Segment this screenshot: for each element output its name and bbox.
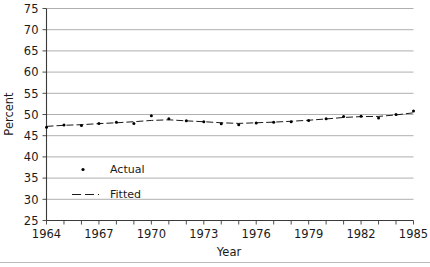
y-tick-labels-group: 2530354045505560657075 [24, 2, 39, 228]
data-point [150, 114, 153, 117]
data-point [377, 116, 380, 119]
x-tick-label: 1973 [189, 227, 218, 241]
y-tick-label: 65 [24, 44, 39, 58]
y-tick-label: 55 [24, 87, 39, 101]
x-tick-label: 1970 [137, 227, 166, 241]
data-point [237, 123, 240, 126]
chart-figure: 2530354045505560657075 19641967197019731… [0, 0, 430, 267]
data-point [307, 119, 310, 122]
x-tick-label: 1985 [399, 227, 428, 241]
y-tick-marks-group [43, 9, 47, 221]
data-point [360, 115, 363, 118]
y-tick-label: 45 [24, 129, 39, 143]
data-point [97, 122, 100, 125]
figure-bottom-rule [0, 262, 430, 263]
data-point [272, 121, 275, 124]
data-point [412, 110, 415, 113]
data-point [132, 122, 135, 125]
data-point [45, 126, 48, 129]
legend-label-actual: Actual [110, 163, 144, 176]
legend-marker-actual [81, 168, 84, 171]
y-axis-title: Percent [2, 92, 16, 136]
data-point [80, 124, 83, 127]
y-tick-label: 40 [24, 150, 39, 164]
data-point [185, 119, 188, 122]
x-axis-title: Year [216, 245, 242, 259]
x-tick-labels-group: 19641967197019731976197919821985 [32, 227, 428, 241]
chart-legend: ActualFitted [72, 163, 144, 201]
data-point [202, 120, 205, 123]
x-tick-label: 1967 [84, 227, 113, 241]
x-tick-label: 1979 [294, 227, 323, 241]
data-point [342, 115, 345, 118]
data-point [62, 124, 65, 127]
data-point [255, 121, 258, 124]
data-point [325, 117, 328, 120]
data-point [115, 121, 118, 124]
data-point [220, 122, 223, 125]
y-tick-label: 30 [24, 193, 39, 207]
x-tick-label: 1976 [242, 227, 271, 241]
y-tick-label: 60 [24, 65, 39, 79]
data-point [395, 113, 398, 116]
gridlines-group [47, 9, 414, 200]
x-tick-marks-group [47, 221, 414, 225]
data-point [167, 117, 170, 120]
y-tick-label: 70 [24, 23, 39, 37]
data-point [290, 120, 293, 123]
chart-canvas: 2530354045505560657075 19641967197019731… [0, 0, 430, 267]
y-tick-label: 35 [24, 171, 39, 185]
x-tick-label: 1964 [32, 227, 61, 241]
y-tick-label: 50 [24, 108, 39, 122]
series-actual [45, 110, 415, 129]
x-tick-label: 1982 [346, 227, 375, 241]
legend-label-fitted: Fitted [110, 188, 141, 201]
y-tick-label: 75 [24, 2, 39, 16]
